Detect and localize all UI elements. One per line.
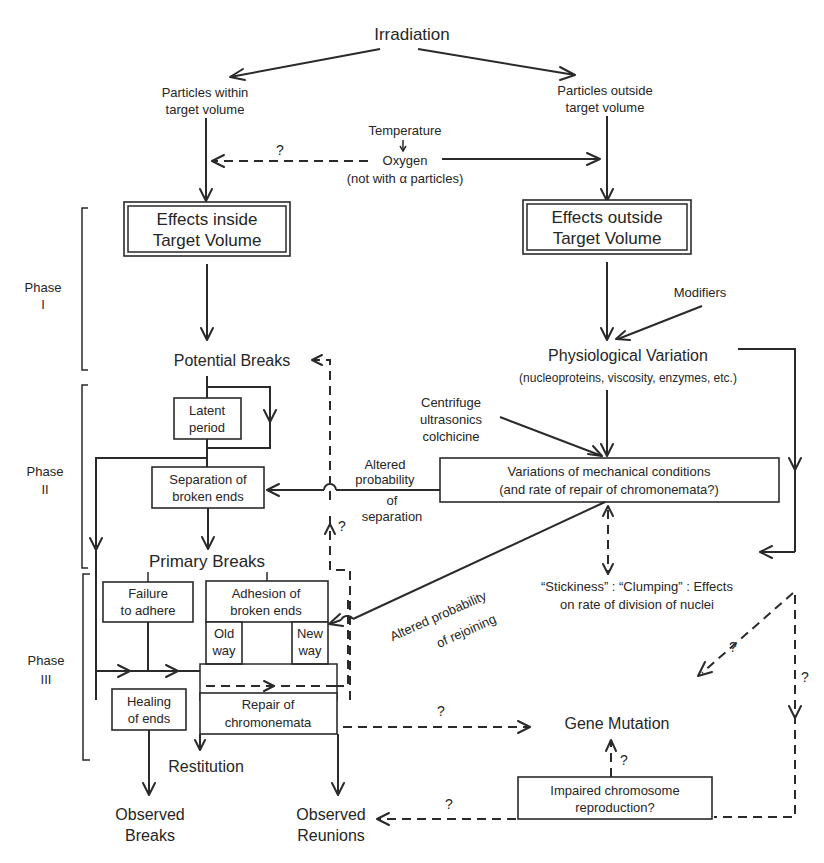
arrow-irradiation-outside xyxy=(418,49,575,75)
svg-text:reproduction?: reproduction? xyxy=(575,800,655,815)
svg-text:Variations of mechanical condi: Variations of mechanical conditions xyxy=(508,464,711,479)
svg-text:broken ends: broken ends xyxy=(230,603,302,618)
svg-text:Latent: Latent xyxy=(189,403,226,418)
label-altered: Altered xyxy=(364,457,405,472)
node-potential-breaks: Potential Breaks xyxy=(174,352,291,369)
node-impaired-reproduction: Impaired chromosome reproduction? xyxy=(518,777,712,819)
phase1-numeral: I xyxy=(41,297,45,312)
arrow-irradiation-within xyxy=(230,49,380,77)
phase3-bracket xyxy=(83,574,90,760)
arrow-physio-right xyxy=(738,349,795,552)
radiation-chromosome-diagram: Irradiation Particles within target volu… xyxy=(0,0,824,863)
node-gene-mutation: Gene Mutation xyxy=(565,715,670,732)
node-oxygen: Oxygen xyxy=(383,153,428,168)
node-primary-breaks: Primary Breaks xyxy=(149,552,265,571)
svg-text:New: New xyxy=(297,626,324,641)
node-particles-within: Particles within xyxy=(162,85,249,100)
node-restitution: Restitution xyxy=(168,758,244,775)
node-observed-breaks: Observed xyxy=(115,806,184,823)
svg-text:Impaired chromosome: Impaired chromosome xyxy=(550,783,679,798)
phase2-label: Phase xyxy=(27,464,64,479)
svg-text:Old: Old xyxy=(214,626,234,641)
question-mark: ? xyxy=(801,669,809,685)
svg-text:Target Volume: Target Volume xyxy=(153,231,262,250)
node-healing-of-ends: Healing of ends xyxy=(112,689,186,730)
node-irradiation: Irradiation xyxy=(374,25,450,44)
phase1-bracket xyxy=(82,208,88,370)
node-observed-reunions: Observed xyxy=(296,806,365,823)
node-particles-outside-line2: target volume xyxy=(566,100,645,115)
node-temperature: Temperature xyxy=(369,123,442,138)
node-repair-chromonemata: Repair of chromonemata xyxy=(200,693,337,734)
svg-text:Effects inside: Effects inside xyxy=(157,210,258,229)
question-mark: ? xyxy=(338,518,346,534)
node-ultrasonics: ultrasonics xyxy=(420,412,483,427)
node-centrifuge: Centrifuge xyxy=(421,395,481,410)
node-effects-inside: Effects inside Target Volume xyxy=(124,202,290,256)
svg-text:period: period xyxy=(189,420,225,435)
svg-text:Effects outside: Effects outside xyxy=(551,208,662,227)
node-new-way: New way xyxy=(292,622,328,664)
svg-text:Repair of: Repair of xyxy=(242,697,295,712)
label-separation: separation xyxy=(362,509,423,524)
phase3-label: Phase xyxy=(28,653,65,668)
svg-text:way: way xyxy=(211,643,236,658)
dashed-arrow-to-potential xyxy=(314,360,330,500)
node-adhesion: Adhesion of broken ends xyxy=(206,581,328,622)
node-old-way: Old way xyxy=(206,622,242,664)
question-mark: ? xyxy=(729,639,737,655)
node-stickiness-line2: on rate of division of nuclei xyxy=(560,597,714,612)
dashed-arrow-right-down xyxy=(714,595,795,817)
question-mark: ? xyxy=(437,703,445,719)
svg-text:to adhere: to adhere xyxy=(121,603,176,618)
question-mark: ? xyxy=(276,142,284,158)
svg-text:Failure: Failure xyxy=(128,586,168,601)
svg-text:way: way xyxy=(297,643,322,658)
node-oxygen-note: (not with α particles) xyxy=(347,171,464,186)
node-latent-period: Latent period xyxy=(174,398,241,439)
node-effects-outside: Effects outside Target Volume xyxy=(523,200,691,254)
node-observed-breaks-line2: Breaks xyxy=(125,827,175,844)
label-of: of xyxy=(387,493,398,508)
svg-text:chromonemata: chromonemata xyxy=(225,715,312,730)
svg-text:of ends: of ends xyxy=(128,711,171,726)
phase2-numeral: II xyxy=(41,482,48,497)
question-mark: ? xyxy=(445,796,453,812)
node-stickiness: “Stickiness” : “Clumping” : Effects xyxy=(541,579,733,594)
svg-text:broken ends: broken ends xyxy=(172,489,244,504)
svg-text:Target Volume: Target Volume xyxy=(553,229,662,248)
dashed-arrow-to-gene xyxy=(702,593,793,673)
node-modifiers: Modifiers xyxy=(674,285,727,300)
svg-text:(and rate of repair of chromon: (and rate of repair of chromonemata?) xyxy=(499,482,719,497)
node-particles-within-line2: target volume xyxy=(166,102,245,117)
node-failure-to-adhere: Failure to adhere xyxy=(103,582,193,622)
svg-text:Healing: Healing xyxy=(127,694,171,709)
node-mechanical-conditions: Variations of mechanical conditions (and… xyxy=(440,458,779,502)
phase3-numeral: III xyxy=(41,672,52,687)
svg-text:Adhesion of: Adhesion of xyxy=(232,586,301,601)
question-mark: ? xyxy=(620,752,628,768)
svg-text:Separation of: Separation of xyxy=(169,472,247,487)
phase2-bracket xyxy=(82,385,88,568)
phase1-label: Phase xyxy=(25,280,62,295)
node-physiological-note: (nucleoproteins, viscosity, enzymes, etc… xyxy=(519,371,737,385)
node-particles-outside: Particles outside xyxy=(557,83,652,98)
node-separation: Separation of broken ends xyxy=(152,467,264,508)
label-probability: probability xyxy=(355,472,415,487)
node-observed-reunions-line2: Reunions xyxy=(297,827,365,844)
node-physiological-variation: Physiological Variation xyxy=(548,347,708,364)
node-colchicine: colchicine xyxy=(422,429,479,444)
